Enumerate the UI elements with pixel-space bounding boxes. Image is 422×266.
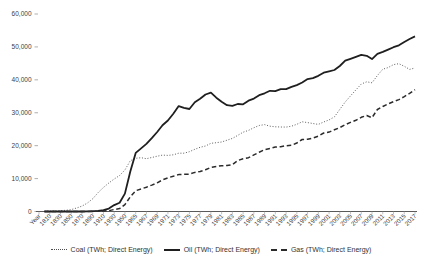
y-tick-label: 50,000 [12,43,32,50]
oil-solid-line-icon [164,249,180,251]
legend-item-gas: Gas (TWh; Direct Energy) [271,246,372,253]
y-axis: 010,00020,00030,00040,00050,00060,000 [12,10,38,215]
legend-label-oil: Oil (TWh; Direct Energy) [184,246,260,253]
y-tick-label: 30,000 [12,109,32,116]
gas-dashed-line-icon [271,249,287,251]
legend-label-coal: Coal (TWh; Direct Energy) [71,246,153,253]
series-line-coal [44,64,415,212]
series-line-oil [44,36,415,211]
fossil-fuel-line-chart: 010,00020,00030,00040,00050,00060,000Yea… [0,0,422,246]
y-tick-label: 0 [28,208,32,215]
y-tick-label: 10,000 [12,175,32,182]
x-axis: Year181018301850187018901910193019501965… [28,212,418,227]
y-tick-label: 60,000 [12,10,32,17]
legend-item-coal: Coal (TWh; Direct Energy) [51,246,153,253]
legend-label-gas: Gas (TWh; Direct Energy) [291,246,372,253]
coal-dotted-line-icon [51,249,67,250]
y-tick-label: 20,000 [12,142,32,149]
chart-page: 010,00020,00030,00040,00050,00060,000Yea… [0,0,422,266]
legend-item-oil: Oil (TWh; Direct Energy) [164,246,260,253]
chart-legend: Coal (TWh; Direct Energy) Oil (TWh; Dire… [0,246,422,253]
series-line-gas [44,90,415,212]
x-tick-label: 2017 [403,212,418,227]
y-tick-label: 40,000 [12,76,32,83]
